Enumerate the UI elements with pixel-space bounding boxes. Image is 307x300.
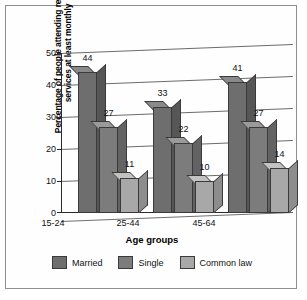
bar-25-44-common-law[interactable]: 10 bbox=[195, 181, 214, 213]
legend-swatch-common-law bbox=[180, 256, 195, 269]
bar-value-label: 27 bbox=[99, 108, 118, 118]
bar-face bbox=[153, 107, 172, 213]
y-tickmark-10 bbox=[57, 181, 62, 182]
bar-face bbox=[120, 178, 139, 213]
legend-swatch-single bbox=[118, 256, 133, 269]
legend-label-married: Married bbox=[72, 258, 103, 268]
y-tickmark-30 bbox=[57, 117, 62, 118]
bar-value-label: 27 bbox=[249, 108, 268, 118]
bar-value-label: 11 bbox=[120, 159, 139, 169]
bar-side bbox=[139, 170, 148, 213]
y-tick-40: 40 bbox=[36, 80, 56, 90]
y-axis-tick-labels: 0 10 20 30 40 50 bbox=[34, 53, 56, 213]
legend-item-common-law[interactable]: Common law bbox=[180, 256, 253, 269]
legend-item-single[interactable]: Single bbox=[118, 256, 163, 269]
bar-15-24-common-law[interactable]: 11 bbox=[120, 178, 139, 213]
y-axis-line bbox=[61, 53, 62, 213]
bar-face bbox=[195, 181, 214, 213]
y-tickmark-20 bbox=[57, 149, 62, 150]
bar-face bbox=[228, 82, 247, 213]
bar-value-label: 22 bbox=[174, 124, 193, 134]
x-tick-label-25-44: 25-44 bbox=[98, 218, 158, 228]
bar-45-64-common-law[interactable]: 14 bbox=[270, 168, 289, 213]
y-tick-10: 10 bbox=[36, 176, 56, 186]
legend-label-single: Single bbox=[138, 258, 163, 268]
bar-side bbox=[214, 173, 223, 213]
chart-legend: Married Single Common law bbox=[6, 256, 298, 269]
y-tick-0: 0 bbox=[36, 208, 56, 218]
x-tick-label-15-24: 15-24 bbox=[23, 218, 83, 228]
y-tick-50: 50 bbox=[36, 48, 56, 58]
bar-value-label: 10 bbox=[195, 162, 214, 172]
bar-value-label: 41 bbox=[228, 63, 247, 73]
y-tickmark-0 bbox=[57, 212, 62, 213]
y-tick-30: 30 bbox=[36, 112, 56, 122]
bar-face bbox=[270, 168, 289, 213]
y-tick-20: 20 bbox=[36, 144, 56, 154]
x-tick-label-45-64: 45-64 bbox=[174, 218, 234, 228]
legend-swatch-married bbox=[52, 256, 67, 269]
legend-item-married[interactable]: Married bbox=[52, 256, 103, 269]
legend-label-common-law: Common law bbox=[200, 258, 253, 268]
bar-15-24-single[interactable]: 27 bbox=[99, 127, 118, 213]
bar-side bbox=[289, 160, 298, 213]
chart-frame: Percentage of people attending religious… bbox=[5, 5, 297, 289]
bar-face bbox=[78, 72, 97, 213]
bar-face bbox=[249, 127, 268, 213]
y-tickmark-40 bbox=[57, 85, 62, 86]
bar-15-24-married[interactable]: 44 bbox=[78, 72, 97, 213]
x-axis-title: Age groups bbox=[6, 234, 298, 245]
bar-25-44-married[interactable]: 33 bbox=[153, 107, 172, 213]
bar-face bbox=[99, 127, 118, 213]
bar-45-64-married[interactable]: 41 bbox=[228, 82, 247, 213]
bar-value-label: 14 bbox=[270, 149, 289, 159]
bar-value-label: 44 bbox=[78, 53, 97, 63]
bar-value-label: 33 bbox=[153, 88, 172, 98]
plot-area: 44 27 11 33 22 bbox=[61, 53, 293, 213]
y-tickmark-50 bbox=[57, 53, 62, 54]
bar-45-64-single[interactable]: 27 bbox=[249, 127, 268, 213]
